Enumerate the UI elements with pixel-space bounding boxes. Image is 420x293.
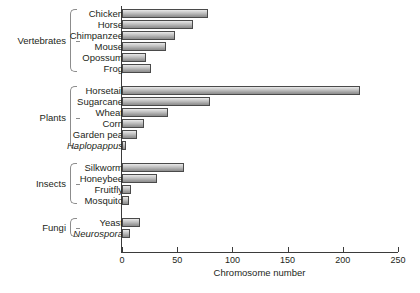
bar [122, 64, 151, 74]
category-label: Silkworm [84, 162, 123, 173]
chart-row: Horsetail [0, 85, 420, 96]
x-tick-label: 50 [172, 255, 182, 266]
category-label: Sugarcane [77, 96, 123, 107]
bar [122, 130, 137, 140]
bar [122, 42, 166, 52]
category-label: Chimpanzee [70, 30, 123, 41]
chart-row: Corn [0, 118, 420, 129]
chart-row: Sugarcane [0, 96, 420, 107]
x-tick [122, 247, 123, 252]
bar [122, 141, 126, 151]
x-tick-label: 100 [225, 255, 240, 266]
category-label: Neurospora [73, 228, 123, 239]
x-tick-label: 200 [335, 255, 350, 266]
category-label: Mosquito [84, 195, 123, 206]
chart-row: Chimpanzee [0, 30, 420, 41]
category-label: Frog [103, 63, 123, 74]
x-tick [177, 247, 178, 252]
category-label: Horsetail [86, 85, 124, 96]
category-label: Fruitfly [95, 184, 124, 195]
bar [122, 174, 157, 184]
x-axis-line [121, 252, 398, 253]
category-label: Chicken [89, 8, 123, 19]
bar [122, 108, 168, 118]
x-tick [398, 247, 399, 252]
x-tick [288, 247, 289, 252]
bar [122, 218, 140, 228]
bar [122, 229, 130, 239]
chart-row: Fruitfly [0, 184, 420, 195]
bar [122, 20, 193, 30]
bar [122, 196, 129, 206]
chart-row: Silkworm [0, 162, 420, 173]
category-label: Garden pea [73, 129, 123, 140]
chart-row: Chicken [0, 8, 420, 19]
category-label: Honeybee [80, 173, 123, 184]
chart-row: Neurospora [0, 228, 420, 239]
category-label: Yeast [100, 217, 123, 228]
chart-row: Yeast [0, 217, 420, 228]
chart-row: Garden pea [0, 129, 420, 140]
chart-row: Haplopappus [0, 140, 420, 151]
x-tick-label: 150 [280, 255, 295, 266]
bar [122, 185, 131, 195]
chart-row: Wheat [0, 107, 420, 118]
chart-row: Horse [0, 19, 420, 30]
bar [122, 119, 144, 129]
bar [122, 86, 360, 96]
category-label: Opossum [82, 52, 123, 63]
x-tick [232, 247, 233, 252]
x-tick-label: 250 [390, 255, 405, 266]
category-label: Corn [102, 118, 123, 129]
bar [122, 163, 184, 173]
bar [122, 97, 210, 107]
category-label: Mouse [94, 41, 123, 52]
category-label: Haplopappus [67, 140, 123, 151]
bar [122, 9, 208, 19]
x-tick-label: 0 [119, 255, 124, 266]
category-label: Horse [98, 19, 123, 30]
bar [122, 31, 175, 41]
chromosome-number-bar-chart: VertebratesPlantsInsectsFungi 0501001502… [0, 0, 420, 293]
chart-row: Honeybee [0, 173, 420, 184]
chart-row: Opossum [0, 52, 420, 63]
x-tick [343, 247, 344, 252]
chart-row: Frog [0, 63, 420, 74]
bar [122, 53, 146, 63]
chart-row: Mosquito [0, 195, 420, 206]
x-axis-title: Chromosome number [121, 267, 398, 278]
chart-row: Mouse [0, 41, 420, 52]
category-label: Wheat [96, 107, 123, 118]
